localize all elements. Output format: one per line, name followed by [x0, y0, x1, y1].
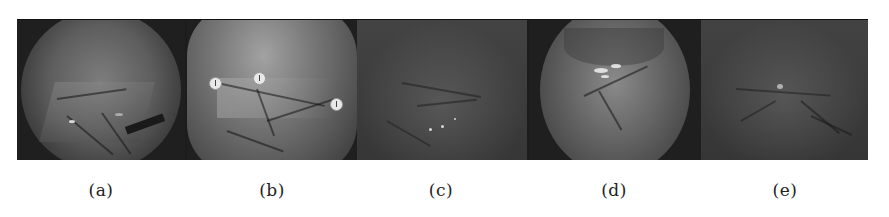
caption-d: (d) — [601, 180, 627, 200]
panel-b-image — [187, 20, 357, 160]
marker-right — [330, 98, 343, 111]
panel-d-image — [529, 20, 701, 160]
caption-c: (c) — [429, 180, 453, 200]
caption-e: (e) — [773, 180, 798, 200]
caption-b: (b) — [259, 180, 285, 200]
marker-center — [253, 72, 266, 85]
figure: (a) (b) (c) (d) (e) — [0, 0, 889, 217]
image-strip — [17, 19, 868, 160]
caption-a: (a) — [89, 180, 114, 200]
marker-left — [209, 77, 222, 90]
panel-e-image — [701, 20, 868, 160]
panel-a-image — [17, 20, 185, 160]
panel-c-image — [357, 20, 527, 160]
